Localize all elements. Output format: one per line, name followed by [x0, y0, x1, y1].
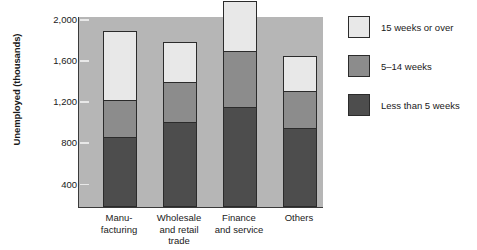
legend-swatch	[348, 94, 370, 116]
bar-segment	[224, 2, 256, 51]
legend-item: 5–14 weeks	[348, 55, 476, 77]
y-tick-mark	[80, 184, 89, 186]
legend-label: 5–14 weeks	[381, 61, 432, 72]
bar-segment	[284, 57, 316, 91]
bar-stack	[103, 31, 137, 207]
bar-segment	[104, 137, 136, 206]
figure-caption	[8, 244, 477, 250]
bar-segment	[104, 100, 136, 137]
bar-stack	[223, 1, 257, 207]
y-tick-label: 1,200	[53, 96, 77, 107]
bar-segment	[104, 32, 136, 100]
bar-stack	[283, 56, 317, 207]
y-tick-1600: 1,600	[43, 55, 89, 66]
bar-segment	[164, 43, 196, 82]
y-tick-1200: 1,200	[43, 96, 89, 107]
legend-label: 15 weeks or over	[381, 22, 453, 33]
y-tick-label: 400	[61, 179, 77, 190]
y-tick-800: 800	[43, 137, 89, 148]
x-axis-label-line: Others	[256, 212, 342, 224]
y-tick-mark	[80, 19, 89, 21]
legend-swatch	[348, 55, 370, 77]
chart-legend: 15 weeks or over5–14 weeksLess than 5 we…	[348, 16, 476, 133]
bar-segment	[224, 51, 256, 107]
y-tick-400: 400	[43, 179, 89, 190]
x-axis-label: Others	[256, 212, 342, 224]
bar-segment	[224, 107, 256, 206]
legend-swatch	[348, 16, 370, 38]
bar-segment	[164, 122, 196, 206]
y-tick-mark	[80, 142, 89, 144]
y-tick-2000: 2,000	[43, 14, 89, 25]
y-tick-mark	[80, 60, 89, 62]
bar-segment	[164, 82, 196, 122]
bar-stack	[163, 42, 197, 207]
unemployment-stacked-bar-chart: Unemployed (thousands) 2,0001,6001,20080…	[0, 0, 477, 250]
legend-label: Less than 5 weeks	[381, 100, 460, 111]
bar-segment	[284, 91, 316, 128]
x-axis-label-line: and service	[196, 224, 282, 236]
y-axis-title: Unemployed (thousands)	[11, 0, 22, 180]
y-tick-mark	[80, 101, 89, 103]
y-tick-label: 2,000	[53, 14, 77, 25]
bar-segment	[284, 128, 316, 206]
plot-area: 2,0001,6001,200800400	[78, 17, 323, 208]
y-tick-label: 1,600	[53, 55, 77, 66]
y-tick-label: 800	[61, 137, 77, 148]
legend-item: Less than 5 weeks	[348, 94, 476, 116]
legend-item: 15 weeks or over	[348, 16, 476, 38]
